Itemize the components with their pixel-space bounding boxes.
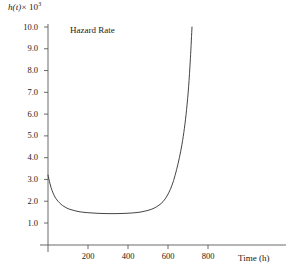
- hazard-rate-curve: [48, 27, 192, 214]
- x-tick-marks: [88, 245, 208, 249]
- plot-area: [0, 0, 294, 275]
- hazard-rate-chart: h(t)× 103 Hazard Rate Time (h) 1.02.03.0…: [0, 0, 294, 275]
- axis-lines: [40, 24, 286, 252]
- y-tick-marks: [44, 27, 48, 223]
